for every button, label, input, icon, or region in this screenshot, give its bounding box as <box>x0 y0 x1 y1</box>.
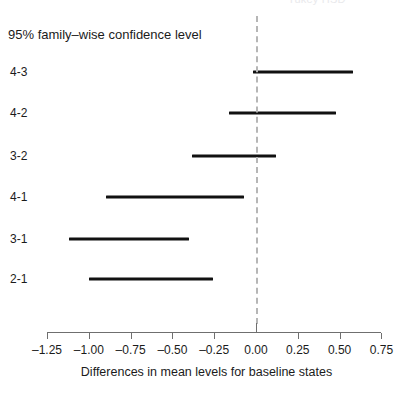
confidence-interval-3-1 <box>69 238 189 241</box>
x-tick--0.50 <box>172 333 173 339</box>
row-label-4-3: 4-3 <box>10 65 27 79</box>
x-tick--1.00 <box>89 333 90 339</box>
x-tick-0.75 <box>381 333 382 339</box>
row-label-4-2: 4-2 <box>10 106 27 120</box>
x-tick-0.25 <box>298 333 299 339</box>
x-tick-label-0.75: 0.75 <box>370 343 393 357</box>
x-tick-label--1.25: –1.25 <box>32 343 62 357</box>
clipped-plot-title: Tukey HSD <box>288 0 346 5</box>
row-label-3-2: 3-2 <box>10 149 27 163</box>
x-tick-label-0.00: 0.00 <box>244 343 267 357</box>
row-label-2-1: 2-1 <box>10 272 27 286</box>
x-tick-label--0.50: –0.50 <box>157 343 187 357</box>
x-tick-label--0.25: –0.25 <box>199 343 229 357</box>
x-tick-0.50 <box>340 333 341 339</box>
x-tick-0.00 <box>256 323 257 332</box>
row-label-4-1: 4-1 <box>10 190 27 204</box>
x-tick--0.75 <box>131 333 132 339</box>
x-tick-label--1.00: –1.00 <box>74 343 104 357</box>
confidence-interval-3-2 <box>192 155 276 158</box>
x-tick--1.25 <box>47 333 48 339</box>
zero-reference-line <box>256 16 258 324</box>
confidence-interval-4-1 <box>106 196 245 199</box>
row-label-3-1: 3-1 <box>10 232 27 246</box>
tukey-hsd-plot: Tukey HSD 95% family–wise confidence lev… <box>0 0 413 394</box>
confidence-interval-4-2 <box>229 112 336 115</box>
x-tick--0.25 <box>214 333 215 339</box>
x-axis-title: Differences in mean levels for baseline … <box>0 365 413 379</box>
confidence-interval-4-3 <box>253 71 353 74</box>
x-tick-label-0.25: 0.25 <box>286 343 309 357</box>
confidence-interval-2-1 <box>89 278 213 281</box>
x-tick-label-0.50: 0.50 <box>328 343 351 357</box>
confidence-level-label: 95% family–wise confidence level <box>8 27 202 42</box>
x-tick-label--0.75: –0.75 <box>116 343 146 357</box>
